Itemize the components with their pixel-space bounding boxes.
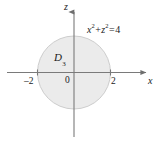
region-label-base: D bbox=[54, 51, 62, 63]
coordinate-plot-svg bbox=[0, 0, 161, 143]
x-tick-label-neg2: –2 bbox=[24, 77, 34, 87]
equation-exponent1: 2 bbox=[91, 22, 94, 29]
region-label-d3: D3 bbox=[54, 52, 65, 66]
x-axis-label: x bbox=[148, 76, 152, 86]
origin-label: 0 bbox=[65, 76, 70, 86]
math-figure-disk-d3: z x –2 2 0 D3 x2+z2=4 bbox=[0, 0, 161, 143]
z-axis-label: z bbox=[64, 2, 68, 12]
equation-exponent2: 2 bbox=[105, 22, 108, 29]
equation-right-hand-side: 4 bbox=[115, 24, 120, 35]
region-label-subscript: 3 bbox=[62, 60, 66, 68]
equation-label: x2+z2=4 bbox=[87, 24, 120, 35]
x-tick-label-pos2: 2 bbox=[111, 77, 116, 87]
